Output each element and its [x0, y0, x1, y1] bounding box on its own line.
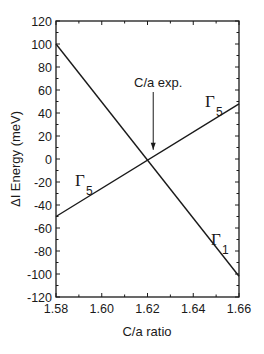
y-tick-label: 60	[38, 84, 52, 98]
svg-text:Γ: Γ	[75, 171, 85, 190]
y-tick-label: -100	[27, 268, 52, 282]
y-tick-label: 80	[38, 61, 52, 75]
y-tick-label: -20	[34, 176, 52, 190]
x-tick-label: 1.66	[227, 302, 251, 316]
plot-frame	[56, 21, 239, 297]
svg-text:Γ: Γ	[211, 230, 221, 249]
arrow-head-icon	[151, 143, 156, 150]
x-tick-label: 1.64	[181, 302, 205, 316]
ca-exp-annotation: C/a exp.	[134, 75, 182, 90]
gamma5-line	[56, 104, 239, 217]
x-tick-label: 1.58	[44, 302, 68, 316]
y-tick-label: 40	[38, 107, 52, 121]
x-tick-label: 1.60	[90, 302, 114, 316]
y-axis-label: ΔΙ Energy (meV)	[8, 111, 23, 207]
x-tick-label: 1.62	[135, 302, 159, 316]
y-tick-label: 0	[45, 153, 52, 167]
svg-text:5: 5	[216, 105, 223, 119]
x-axis-label: C/a ratio	[122, 324, 171, 339]
y-tick-label: 20	[38, 130, 52, 144]
y-tick-label: -80	[34, 245, 52, 259]
svg-text:1: 1	[222, 243, 229, 257]
y-tick-label: 120	[31, 15, 52, 29]
y-tick-label: -40	[34, 199, 52, 213]
energy-vs-ca-ratio-chart: 120100806040200-20-40-60-80-100-1201.581…	[0, 0, 264, 354]
y-tick-label: 100	[31, 38, 52, 52]
svg-text:5: 5	[86, 184, 93, 198]
gamma5-label-left: Γ 5	[75, 171, 93, 198]
gamma5-label-right: Γ 5	[205, 92, 223, 119]
svg-text:Γ: Γ	[205, 92, 215, 111]
y-tick-label: -60	[34, 222, 52, 236]
